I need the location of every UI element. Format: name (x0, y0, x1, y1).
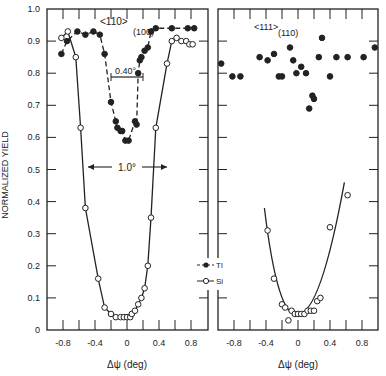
data-point-tl (230, 74, 236, 80)
channeling-yield-figure: -0.8-0.400.40.8 -0.8-0.400.40.8 00.10.20… (0, 0, 386, 376)
data-point-si (286, 318, 292, 324)
data-point-si (282, 305, 288, 311)
data-point-tl (64, 38, 70, 44)
y-axis-title: NORMALIZED YIELD (0, 131, 10, 219)
data-point-tl (75, 29, 81, 35)
data-point-tl (319, 35, 325, 41)
data-point-tl (316, 54, 322, 60)
data-point-tl (97, 32, 103, 38)
width-narrow-label: 0.40° (115, 66, 137, 76)
width-wide-label: 1.0° (118, 162, 136, 173)
data-point-tl (257, 54, 263, 60)
annotation-100-label: (100) (133, 27, 154, 37)
data-point-tl (191, 25, 197, 31)
data-point-tl (102, 51, 108, 57)
data-point-tl (290, 58, 296, 64)
data-point-tl (108, 99, 114, 105)
data-point-si (59, 35, 65, 41)
data-point-si (135, 302, 141, 308)
data-point-tl (113, 119, 119, 125)
x-tick-label: -0.8 (226, 338, 242, 348)
y-tick-label: 0.7 (27, 100, 40, 110)
data-point-tl (265, 58, 271, 64)
data-point-tl (59, 51, 65, 57)
filled-circle-icon (203, 262, 208, 267)
y-tick-label: 0.3 (27, 229, 40, 239)
data-point-si (148, 215, 154, 221)
y-tick-label: 0.2 (27, 261, 40, 271)
data-point-tl (145, 45, 151, 51)
y-axis-tick-labels: 00.10.20.30.40.50.60.70.80.91.0 (27, 4, 40, 335)
data-point-si (102, 305, 108, 311)
data-point-si (345, 192, 351, 198)
data-point-tl (271, 51, 277, 57)
data-point-si (132, 308, 138, 314)
data-point-si (65, 29, 71, 35)
data-point-tl (91, 29, 97, 35)
data-point-tl (134, 122, 140, 128)
data-point-si (153, 125, 159, 131)
data-point-tl (372, 45, 378, 51)
data-point-tl (83, 32, 89, 38)
y-tick-label: 0.4 (27, 197, 40, 207)
data-point-tl (311, 96, 317, 102)
x-tick-label: 0.4 (324, 338, 337, 348)
data-point-tl (218, 61, 224, 67)
data-point-tl (298, 64, 304, 70)
data-point-si (327, 224, 333, 230)
data-point-si (78, 125, 84, 131)
y-tick-label: 0.1 (27, 293, 40, 303)
x-axis-title-left: Δψ (deg) (107, 359, 147, 370)
data-point-si (265, 228, 271, 234)
data-point-tl (287, 45, 293, 51)
data-point-si (95, 276, 101, 282)
data-point-si (139, 295, 145, 301)
left-panel-plot: -0.8-0.400.40.8 (47, 9, 208, 348)
annotation-110-label: <110> (100, 16, 128, 27)
data-point-si (311, 308, 317, 314)
annotation-111-label: <111> (254, 22, 278, 32)
data-point-si (83, 205, 89, 211)
y-tick-label: 0.8 (27, 68, 40, 78)
x-tick-label: 0.8 (185, 338, 198, 348)
data-point-si (271, 276, 277, 282)
data-point-tl (345, 54, 351, 60)
y-tick-label: 0.9 (27, 36, 40, 46)
x-tick-label: 0.4 (153, 338, 166, 348)
data-point-tl (169, 25, 175, 31)
y-tick-label: 1.0 (27, 4, 40, 14)
x-tick-label: -0.4 (87, 338, 103, 348)
data-point-tl (294, 70, 300, 76)
x-tick-label: 0.8 (356, 338, 369, 348)
data-point-tl (185, 25, 191, 31)
data-point-tl (303, 70, 309, 76)
legend-label-tl: Tl (216, 261, 223, 270)
data-point-tl (306, 106, 312, 112)
data-point-tl (119, 128, 125, 134)
data-point-si (142, 285, 148, 291)
data-point-tl (238, 74, 244, 80)
y-tick-label: 0 (35, 325, 40, 335)
x-tick-label: 0 (295, 338, 300, 348)
data-point-tl (327, 74, 333, 80)
data-point-tl (126, 138, 132, 144)
y-tick-label: 0.6 (27, 132, 40, 142)
width-marker-wide: 1.0° (88, 162, 167, 173)
annotation-110-sub-label: (110) (278, 28, 298, 38)
open-circle-icon (203, 278, 208, 283)
x-axis-title-right: Δψ (deg) (278, 359, 318, 370)
y-tick-label: 0.5 (27, 165, 40, 175)
data-point-tl (279, 74, 285, 80)
data-point-si (73, 54, 79, 60)
data-point-tl (135, 70, 141, 76)
data-point-tl (361, 54, 367, 60)
data-point-tl (139, 54, 145, 60)
legend: Tl Si (197, 258, 228, 290)
x-tick-label: 0 (124, 338, 129, 348)
data-point-si (318, 295, 324, 301)
data-point-si (190, 42, 196, 48)
x-tick-label: -0.8 (55, 338, 71, 348)
data-point-si (145, 263, 151, 269)
x-tick-label: -0.4 (258, 338, 274, 348)
right-panel-plot: -0.8-0.400.40.8 (218, 9, 378, 348)
